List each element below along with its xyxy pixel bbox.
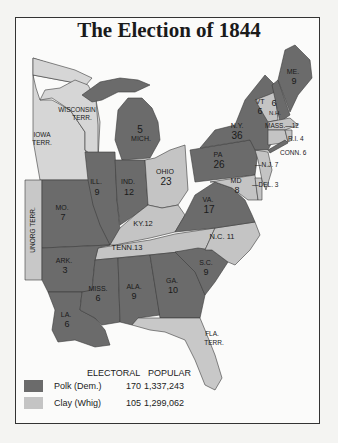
legend-clay-name: Clay (Whig) (54, 398, 101, 408)
label-ala: ALA. (126, 283, 141, 290)
label-fla: FLA. (205, 330, 219, 337)
label-iowa: IOWA (33, 131, 51, 138)
votes-nh: 6 (271, 98, 276, 108)
label-ga: GA. (166, 277, 178, 284)
label-fla-terr: TERR. (204, 339, 224, 346)
legend-polk-name: Polk (Dem.) (54, 381, 102, 391)
northern-unorg-area (33, 58, 92, 85)
legend-header-popular: POPULAR (148, 368, 191, 378)
votes-ind: 12 (124, 187, 134, 197)
label-nh: N.H. (269, 110, 281, 116)
votes-ill: 9 (94, 187, 99, 197)
label-mo: MO. (55, 204, 68, 211)
label-miss: MISS. (88, 285, 107, 292)
label-sc: S.C. (199, 259, 213, 266)
label-pa: PA (214, 151, 223, 158)
label-wisconsin-terr: TERR. (72, 114, 92, 121)
votes-mich: 5 (137, 124, 143, 135)
label-nj: —N.J. 7 (255, 161, 279, 168)
label-nc: N.C. 11 (210, 232, 235, 241)
label-tenn: TENN.13 (112, 243, 143, 252)
votes-md: 8 (234, 185, 239, 195)
label-wisconsin: WISCONSIN (58, 106, 96, 113)
votes-ohio: 23 (160, 176, 172, 187)
label-mich: MICH. (131, 135, 151, 142)
votes-ark: 3 (62, 265, 67, 275)
label-ind: IND. (121, 178, 135, 185)
legend-header-electoral: ELECTORAL (87, 368, 140, 378)
votes-ny: 36 (231, 130, 243, 141)
votes-me: 9 (291, 76, 296, 86)
label-ri: R.I. 4 (288, 135, 304, 142)
clay-swatch (24, 397, 43, 409)
label-va: VA. (203, 196, 214, 203)
votes-sc: 9 (203, 267, 208, 277)
votes-mo: 7 (60, 212, 65, 222)
legend-polk-electoral: 170 (101, 381, 141, 391)
votes-vt: 6 (257, 106, 262, 116)
label-ark: ARK. (56, 257, 72, 264)
label-iowa-terr: TERR. (32, 139, 52, 146)
label-unorg: UNORG TERR. (29, 207, 36, 253)
label-del: —DEL. 3 (252, 181, 279, 188)
label-md: MD (231, 177, 242, 184)
label-ill: ILL. (90, 178, 102, 185)
label-mass: MASS.—12 (265, 122, 299, 129)
votes-la: 6 (64, 319, 69, 329)
label-conn: CONN. 6 (280, 149, 307, 156)
votes-miss: 6 (95, 293, 100, 303)
legend-polk-popular: 1,337,243 (144, 381, 184, 391)
votes-ala: 9 (131, 291, 136, 301)
legend-clay-popular: 1,299,062 (144, 398, 184, 408)
votes-va: 17 (203, 204, 215, 215)
label-ny: N.Y. (231, 122, 244, 129)
label-me: ME. (287, 68, 300, 75)
votes-ga: 10 (168, 285, 178, 295)
votes-pa: 26 (213, 159, 225, 170)
label-ohio: OHIO (156, 168, 174, 175)
legend-row-clay: Clay (Whig) 105 1,299,062 (24, 397, 294, 411)
legend-row-polk: Polk (Dem.) 170 1,337,243 (24, 380, 294, 394)
legend-clay-electoral: 105 (101, 398, 141, 408)
label-ky: KY.12 (133, 219, 152, 228)
polk-swatch (24, 380, 43, 392)
label-vt: VT (256, 98, 266, 105)
label-la: LA. (61, 311, 72, 318)
